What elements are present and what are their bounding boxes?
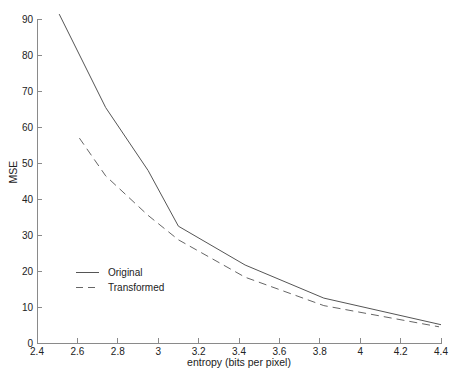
x-tick-label: 4 bbox=[357, 346, 363, 357]
x-tick-label: 2.6 bbox=[70, 346, 84, 357]
x-tick-label: 4.2 bbox=[394, 346, 408, 357]
x-tick-label: 2.8 bbox=[111, 346, 125, 357]
x-tick-label: 3.8 bbox=[313, 346, 327, 357]
x-axis-title: entropy (bits per pixel) bbox=[187, 356, 291, 368]
x-tick-label: 2.4 bbox=[30, 346, 44, 357]
legend-item-transformed: Transformed bbox=[76, 280, 164, 295]
x-tick-label: 4.4 bbox=[434, 346, 448, 357]
legend-label-original: Original bbox=[108, 267, 142, 278]
plot-area: 01020304050607080902.42.62.833.23.43.63.… bbox=[0, 0, 460, 382]
y-tick-label: 10 bbox=[22, 302, 34, 313]
y-tick-label: 20 bbox=[22, 266, 34, 277]
x-tick-label: 3 bbox=[155, 346, 161, 357]
y-tick-label: 50 bbox=[22, 158, 34, 169]
mse-vs-entropy-chart: 01020304050607080902.42.62.833.23.43.63.… bbox=[0, 0, 460, 382]
y-tick-label: 90 bbox=[22, 14, 34, 25]
y-tick-label: 40 bbox=[22, 194, 34, 205]
y-tick-label: 70 bbox=[22, 86, 34, 97]
y-tick-label: 60 bbox=[22, 122, 34, 133]
legend: Original Transformed bbox=[76, 265, 164, 295]
y-tick-label: 80 bbox=[22, 50, 34, 61]
y-axis-title: MSE bbox=[7, 161, 19, 184]
solid-line-swatch bbox=[76, 272, 99, 273]
legend-label-transformed: Transformed bbox=[108, 282, 164, 293]
dashed-line-swatch bbox=[76, 287, 99, 288]
y-tick-label: 30 bbox=[22, 230, 34, 241]
legend-item-original: Original bbox=[76, 265, 164, 280]
transformed-series-line bbox=[79, 138, 439, 327]
